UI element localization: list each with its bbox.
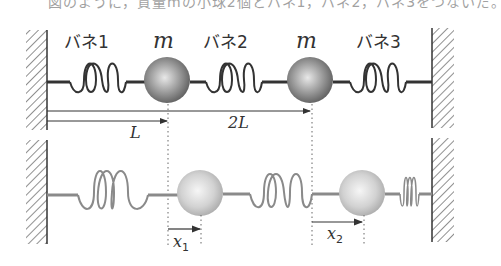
spring-3-label: バネ3 [356,32,401,52]
bottom-diagram: x1 x2 [26,138,454,254]
mass-2-label: m [296,28,317,53]
left-wall-bottom [26,140,47,244]
mass-2-top [287,57,333,103]
mass-1-top [144,57,190,103]
spring-2 [190,64,288,93]
right-wall-bottom [432,138,454,242]
spring-2-bottom [223,174,340,207]
mass-2-bottom [339,170,385,216]
distance-2L-label: 2L [227,113,249,132]
spring-1-stretched [47,171,178,209]
spring-3 [333,64,432,93]
spring-1-label: バネ1 [64,32,109,52]
problem-text-cutoff: 図のように，質量mの小球2個とバネ1，バネ2，バネ3をつないだ。 [48,0,501,11]
right-wall-top [432,28,454,128]
top-diagram: バネ1 m バネ2 m バネ3 L 2L [26,28,454,142]
spring-2-label: バネ2 [203,32,248,52]
mass-1-label: m [153,28,174,53]
displacement-x2-label: x2 [327,224,343,246]
spring-1 [47,64,145,93]
displacement-x1-label: x1 [173,232,189,254]
distance-L-label: L [129,123,141,142]
spring-3-compressed [385,178,432,207]
mass-1-bottom [177,170,223,216]
left-wall-top [26,30,47,130]
